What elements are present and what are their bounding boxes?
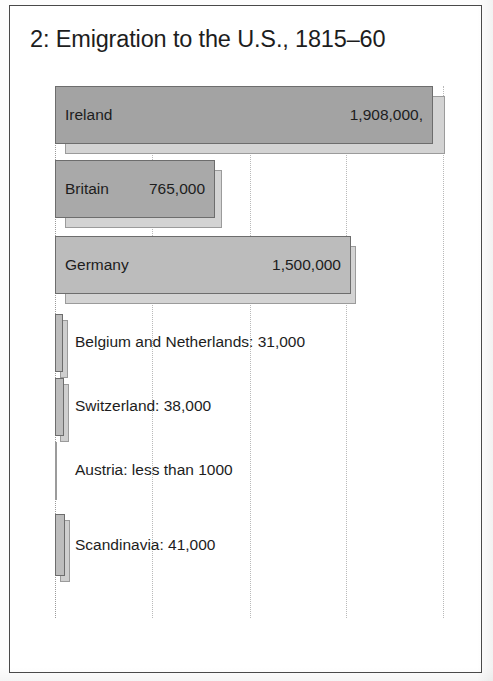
- bar-germany-category-label: Germany: [65, 256, 129, 274]
- bar-belgium-netherlands-label: Belgium and Netherlands: 31,000: [75, 333, 305, 351]
- bar-scandinavia-body[interactable]: [55, 514, 65, 576]
- page-title: 2: Emigration to the U.S., 1815–60: [30, 26, 460, 53]
- bar-britain[interactable]: Britain 765,000: [55, 160, 225, 228]
- bar-ireland-value-label: 1,908,000,: [350, 106, 423, 124]
- bar-britain-body[interactable]: Britain 765,000: [55, 160, 215, 218]
- bar-britain-value-label: 765,000: [149, 180, 205, 198]
- bar-germany-body[interactable]: Germany 1,500,000: [55, 236, 351, 294]
- bar-scandinavia-label: Scandinavia: 41,000: [75, 536, 215, 554]
- bar-britain-category-label: Britain: [65, 180, 109, 198]
- gridline-3: [346, 86, 347, 618]
- bar-switzerland-body[interactable]: [55, 378, 64, 436]
- bar-ireland-body[interactable]: Ireland 1,908,000,: [55, 86, 433, 144]
- gridline-4: [443, 86, 444, 618]
- bar-ireland[interactable]: Ireland 1,908,000,: [55, 86, 445, 154]
- bar-scandinavia[interactable]: Scandinavia: 41,000: [55, 514, 255, 582]
- bar-germany[interactable]: Germany 1,500,000: [55, 236, 360, 304]
- bar-austria-label: Austria: less than 1000: [75, 461, 233, 479]
- slide-page: 2: Emigration to the U.S., 1815–60 Irela…: [0, 0, 493, 681]
- bar-switzerland[interactable]: Switzerland: 38,000: [55, 378, 255, 442]
- bar-belgium-netherlands[interactable]: Belgium and Netherlands: 31,000: [55, 314, 255, 378]
- bar-switzerland-label: Switzerland: 38,000: [75, 397, 211, 415]
- bar-austria[interactable]: Austria: less than 1000: [55, 442, 255, 506]
- bar-austria-body[interactable]: [55, 442, 57, 500]
- bar-ireland-category-label: Ireland: [65, 106, 112, 124]
- bar-germany-value-label: 1,500,000: [272, 256, 341, 274]
- bar-belgium-netherlands-body[interactable]: [55, 314, 63, 372]
- chart-plot-area: Ireland 1,908,000, Britain 765,000 Germa…: [55, 86, 455, 618]
